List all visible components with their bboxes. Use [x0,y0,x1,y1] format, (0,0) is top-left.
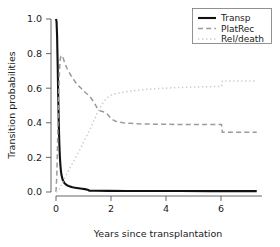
legend-label-platrec: PlatRec [221,24,254,34]
x-tick-label: 6 [218,203,224,214]
y-tick-label: 0.8 [27,48,42,59]
y-tick-labels: 0.00.20.40.60.81.0 [27,13,42,197]
legend: TranspPlatRecRel/death [193,9,272,45]
chart-figure: 0.00.20.40.60.81.0 Transition probabilit… [0,0,280,247]
y-tick-marks [46,19,51,192]
series-line-rel-death [56,81,257,192]
y-axis-title: Transition probabilities [6,51,17,160]
x-axis-title: Years since transplantation [93,228,222,239]
series-line-platrec [56,55,257,192]
legend-label-transp: Transp [220,13,251,23]
x-tick-label: 2 [108,203,114,214]
x-tick-label: 4 [163,203,169,214]
legend-label-rel-death: Rel/death [221,34,264,44]
y-tick-label: 0.4 [27,117,42,128]
x-tick-marks [56,196,221,201]
data-series-group [56,19,257,192]
y-axis: 0.00.20.40.60.81.0 Transition probabilit… [6,13,51,197]
series-line-transp [56,19,257,191]
y-tick-label: 1.0 [27,13,42,24]
y-tick-label: 0.2 [27,152,42,163]
x-tick-labels: 0246 [53,203,224,214]
y-tick-label: 0.6 [27,83,42,94]
x-axis: 0246 Years since transplantation [53,196,262,239]
transition-probabilities-plot: 0.00.20.40.60.81.0 Transition probabilit… [0,0,280,247]
x-tick-label: 0 [53,203,59,214]
y-tick-label: 0.0 [27,186,42,197]
